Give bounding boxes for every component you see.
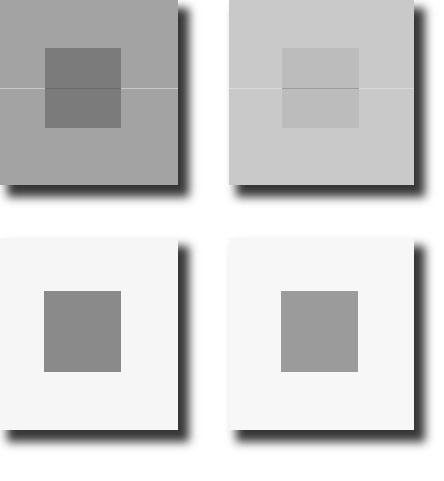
inner-square-top-right <box>282 48 359 128</box>
inner-square-top-left <box>45 48 121 128</box>
inner-square-bottom-left <box>44 291 121 372</box>
inner-square-divider <box>282 88 359 89</box>
panel-top-left <box>0 0 178 185</box>
inner-square-divider <box>45 88 121 89</box>
inner-square-bottom-right <box>281 291 358 372</box>
panel-bottom-right <box>229 238 414 430</box>
panel-top-right <box>229 0 414 185</box>
panel-bottom-left <box>0 238 178 430</box>
